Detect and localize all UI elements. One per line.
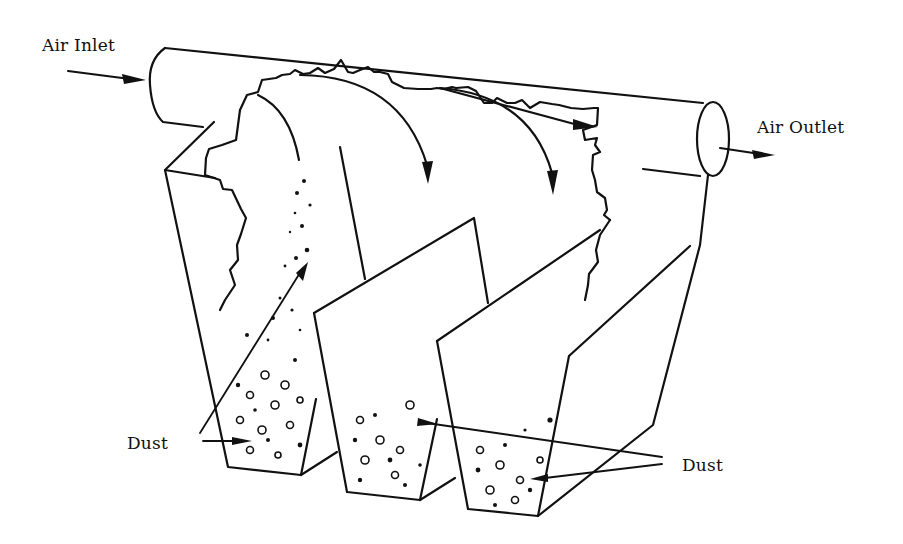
dust-leaders-right (417, 418, 662, 482)
hopper-3 (437, 175, 708, 516)
air-inlet-arrow (68, 71, 146, 84)
dust-label-right: Dust (682, 455, 723, 475)
air-inlet-label: Air Inlet (42, 35, 115, 55)
diagram-drawing (0, 0, 903, 544)
dust-particles (236, 179, 553, 507)
air-outlet-label: Air Outlet (757, 117, 844, 137)
duct (150, 48, 729, 176)
dust-collector-diagram: Air Inlet Air Outlet Dust Dust (0, 0, 903, 544)
airflow-arrows (258, 75, 598, 195)
cutaway-edge (205, 60, 610, 310)
hopper-1 (165, 122, 337, 475)
dust-label-left: Dust (127, 433, 168, 453)
dust-leaders-left (200, 262, 308, 445)
outlet-opening (697, 102, 729, 176)
